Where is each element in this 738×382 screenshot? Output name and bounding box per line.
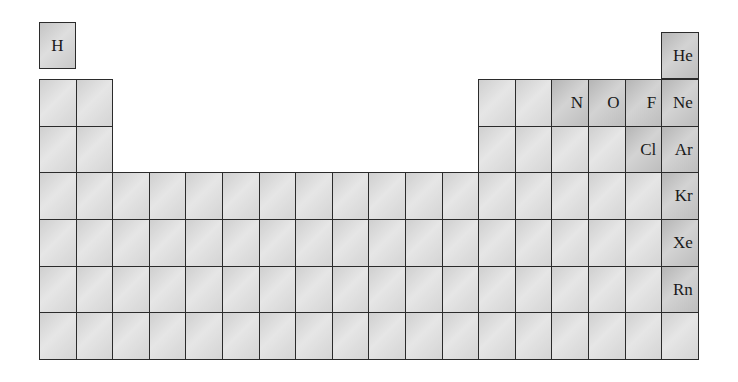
empty-element-cell [222, 219, 260, 267]
empty-element-cell [332, 219, 370, 267]
empty-element-cell [442, 266, 480, 314]
empty-element-cell [112, 219, 150, 267]
empty-element-cell [76, 266, 114, 314]
empty-element-cell [149, 219, 187, 267]
empty-element-cell [76, 79, 114, 127]
empty-element-cell [295, 266, 333, 314]
empty-element-cell [442, 312, 480, 360]
empty-element-cell [185, 219, 223, 267]
empty-element-cell [478, 126, 516, 174]
empty-element-cell [515, 126, 553, 174]
empty-element-cell [661, 312, 699, 360]
empty-element-cell [551, 126, 589, 174]
empty-element-cell [185, 266, 223, 314]
empty-element-cell [295, 312, 333, 360]
empty-element-cell [112, 172, 150, 220]
empty-element-cell [39, 266, 77, 314]
empty-element-cell [76, 126, 114, 174]
empty-element-cell [185, 312, 223, 360]
empty-element-cell [112, 266, 150, 314]
empty-element-cell [295, 219, 333, 267]
empty-element-cell [332, 312, 370, 360]
element-cell-f: F [625, 79, 663, 127]
empty-element-cell [405, 266, 443, 314]
empty-element-cell [295, 172, 333, 220]
element-cell-n: N [551, 79, 589, 127]
empty-element-cell [625, 266, 663, 314]
element-cell-h: H [39, 22, 76, 69]
empty-element-cell [185, 172, 223, 220]
empty-element-cell [515, 79, 553, 127]
empty-element-cell [442, 172, 480, 220]
empty-element-cell [368, 266, 406, 314]
empty-element-cell [551, 219, 589, 267]
empty-element-cell [149, 172, 187, 220]
empty-element-cell [222, 312, 260, 360]
empty-element-cell [259, 312, 297, 360]
empty-element-cell [588, 219, 626, 267]
empty-element-cell [478, 172, 516, 220]
element-cell-kr: Kr [661, 172, 699, 220]
empty-element-cell [515, 219, 553, 267]
empty-element-cell [149, 266, 187, 314]
empty-element-cell [625, 312, 663, 360]
empty-element-cell [478, 312, 516, 360]
empty-element-cell [625, 219, 663, 267]
empty-element-cell [588, 266, 626, 314]
empty-element-cell [222, 172, 260, 220]
empty-element-cell [39, 312, 77, 360]
empty-element-cell [515, 172, 553, 220]
empty-element-cell [515, 266, 553, 314]
empty-element-cell [588, 312, 626, 360]
empty-element-cell [625, 172, 663, 220]
empty-element-cell [39, 79, 77, 127]
empty-element-cell [332, 266, 370, 314]
empty-element-cell [588, 172, 626, 220]
empty-element-cell [405, 172, 443, 220]
empty-element-cell [478, 79, 516, 127]
empty-element-cell [39, 172, 77, 220]
empty-element-cell [368, 172, 406, 220]
empty-element-cell [368, 312, 406, 360]
empty-element-cell [551, 172, 589, 220]
empty-element-cell [405, 312, 443, 360]
element-cell-he: He [661, 32, 699, 79]
empty-element-cell [259, 219, 297, 267]
empty-element-cell [551, 266, 589, 314]
empty-element-cell [405, 219, 443, 267]
empty-element-cell [76, 172, 114, 220]
empty-element-cell [112, 312, 150, 360]
periodic-table: HHeNOFNeClArKrXeRn [0, 0, 738, 382]
element-cell-cl: Cl [625, 126, 663, 174]
empty-element-cell [76, 312, 114, 360]
empty-element-cell [332, 172, 370, 220]
element-cell-ne: Ne [661, 79, 699, 127]
empty-element-cell [39, 126, 77, 174]
element-cell-ar: Ar [661, 126, 699, 174]
element-cell-o: O [588, 79, 626, 127]
empty-element-cell [368, 219, 406, 267]
empty-element-cell [259, 266, 297, 314]
empty-element-cell [551, 312, 589, 360]
empty-element-cell [515, 312, 553, 360]
empty-element-cell [76, 219, 114, 267]
empty-element-cell [478, 266, 516, 314]
empty-element-cell [259, 172, 297, 220]
empty-element-cell [39, 219, 77, 267]
empty-element-cell [222, 266, 260, 314]
empty-element-cell [149, 312, 187, 360]
element-cell-xe: Xe [661, 219, 699, 267]
empty-element-cell [478, 219, 516, 267]
element-cell-rn: Rn [661, 266, 699, 314]
empty-element-cell [588, 126, 626, 174]
empty-element-cell [442, 219, 480, 267]
